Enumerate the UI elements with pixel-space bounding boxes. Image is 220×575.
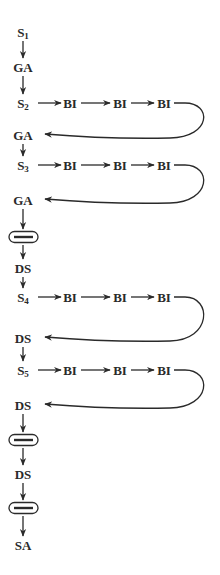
- state-s3: S3: [17, 158, 29, 174]
- branch-node-bi: BI: [113, 290, 127, 305]
- node-ds: DS: [15, 261, 32, 276]
- branch-node-bi: BI: [157, 363, 171, 378]
- branch-node-bi: BI: [113, 158, 127, 173]
- node-ds: DS: [15, 331, 32, 346]
- branch-node-bi: BI: [113, 96, 127, 111]
- branch-node-bi: BI: [63, 158, 77, 173]
- node-ga: GA: [13, 128, 33, 143]
- flow-diagram: S1GAS2BIBIBIGAS3BIBIBIGADSS4BIBIBIDSS5BI…: [0, 0, 220, 575]
- capsule-node: [9, 232, 38, 243]
- branch-node-bi: BI: [157, 290, 171, 305]
- state-s5: S5: [17, 363, 29, 379]
- node-ga: GA: [13, 193, 33, 208]
- state-s2: S2: [17, 96, 29, 112]
- branch-node-bi: BI: [157, 96, 171, 111]
- branch-node-bi: BI: [113, 363, 127, 378]
- node-ds: DS: [15, 467, 32, 482]
- state-s4: S4: [17, 290, 29, 306]
- node-sa: SA: [15, 538, 32, 553]
- branch-node-bi: BI: [63, 363, 77, 378]
- branch-node-bi: BI: [63, 290, 77, 305]
- capsule-node: [9, 435, 38, 446]
- branch-node-bi: BI: [63, 96, 77, 111]
- node-ga: GA: [13, 60, 33, 75]
- branch-node-bi: BI: [157, 158, 171, 173]
- capsule-node: [9, 503, 38, 514]
- node-ds: DS: [15, 398, 32, 413]
- state-s1: S1: [17, 25, 29, 41]
